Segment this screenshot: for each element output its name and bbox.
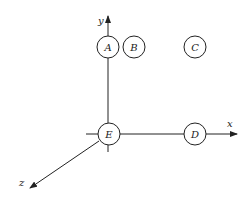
z-axis-label: z	[18, 177, 25, 188]
y-axis-label: y	[97, 15, 104, 26]
node-c: C	[184, 36, 206, 58]
node-a-label: A	[103, 42, 111, 53]
node-d: D	[184, 123, 206, 145]
x-axis-label: x	[227, 118, 233, 129]
node-e-label: E	[104, 129, 113, 140]
node-c-label: C	[191, 42, 199, 53]
node-d-label: D	[190, 129, 199, 140]
node-b-label: B	[129, 42, 137, 53]
node-b: B	[123, 36, 145, 58]
node-e-origin: E	[98, 123, 120, 145]
coordinate-diagram: y x z A B C D E	[0, 0, 250, 204]
x-axis: x	[120, 118, 237, 134]
y-axis: y	[97, 15, 108, 123]
z-axis: z	[18, 141, 99, 188]
node-a: A	[97, 36, 119, 58]
